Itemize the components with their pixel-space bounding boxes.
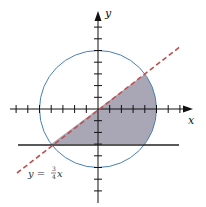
svg-text:3: 3	[52, 165, 56, 172]
svg-text:y =: y =	[27, 168, 45, 179]
y-axis-arrow-icon	[95, 11, 102, 21]
x-axis-arrow-icon	[183, 106, 193, 113]
diagram: x y y = 3 4 x	[0, 0, 206, 207]
svg-text:4: 4	[52, 173, 56, 180]
x-axis-label: x	[188, 114, 195, 127]
y-axis-label: y	[104, 7, 112, 20]
line-label: y = 3 4 x	[27, 165, 63, 180]
svg-text:x: x	[57, 168, 63, 179]
